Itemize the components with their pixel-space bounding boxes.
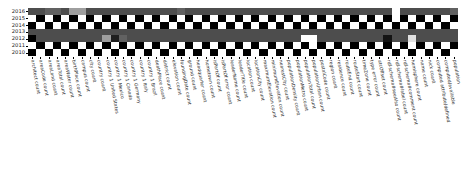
heatmap-cell (425, 8, 433, 15)
heatmap-cell (359, 8, 367, 15)
heatmap-cell (53, 8, 61, 15)
heatmap-cell (326, 15, 334, 22)
heatmap-cell (45, 49, 53, 56)
heatmap-cell (94, 8, 102, 15)
heatmap-cell (416, 29, 424, 36)
heatmap-cell (317, 49, 325, 56)
x-axis-tick-slot: leaderName count (226, 57, 234, 183)
x-axis-tick-mark (231, 57, 232, 59)
heatmap-cell (28, 15, 36, 22)
heatmap-cell (284, 49, 292, 56)
heatmap-cell (86, 22, 94, 29)
x-axis-tick-mark (140, 57, 141, 59)
heatmap-cell (144, 29, 152, 36)
x-axis-tick-mark (305, 57, 306, 59)
heatmap-cell (293, 29, 301, 36)
heatmap-cell (425, 15, 433, 22)
heatmap-cell (383, 49, 391, 56)
heatmap-cell (392, 35, 400, 42)
heatmap-cell (326, 35, 334, 42)
heatmap-cell (135, 29, 143, 36)
heatmap-cell (367, 42, 375, 49)
heatmap-cell (342, 35, 350, 42)
heatmap-cell (367, 29, 375, 36)
x-axis-tick-slot: areaWater count (61, 57, 69, 183)
x-axis-tick-slot: district count (160, 57, 168, 183)
x-axis-tick-slot: populationMetro count (293, 57, 301, 183)
heatmap-cell (326, 49, 334, 56)
heatmap-cell (367, 22, 375, 29)
x-axis-tick-mark (429, 57, 430, 59)
heatmap-cell (193, 8, 201, 15)
heatmap-cell (301, 8, 309, 15)
heatmap-cell (169, 29, 177, 36)
x-axis-tick-slot: population (450, 57, 458, 183)
heatmap-cell (326, 42, 334, 49)
heatmap-cell (293, 22, 301, 29)
heatmap-cell (119, 42, 127, 49)
heatmap-cell (276, 8, 284, 15)
heatmap-cell (243, 15, 251, 22)
heatmap-cell (218, 15, 226, 22)
heatmap-cell (111, 42, 119, 49)
heatmap-grid (28, 8, 458, 56)
heatmap-cell (119, 15, 127, 22)
heatmap-cell (301, 22, 309, 29)
heatmap-cell (392, 22, 400, 29)
heatmap-cell (235, 42, 243, 49)
heatmap-cell (425, 29, 433, 36)
heatmap-cell (284, 8, 292, 15)
x-axis-tick-slot: routeStart count (350, 57, 358, 183)
heatmap-cell (425, 42, 433, 49)
heatmap-cell (210, 42, 218, 49)
heatmap-cell (317, 15, 325, 22)
heatmap-cell (268, 29, 276, 36)
heatmap-cell (152, 35, 160, 42)
heatmap-cell (350, 8, 358, 15)
heatmap-cell (309, 15, 317, 22)
heatmap-cell (111, 29, 119, 36)
heatmap-cell (243, 8, 251, 15)
heatmap-cell (251, 49, 259, 56)
heatmap-cell (102, 35, 110, 42)
heatmap-cell (433, 29, 441, 36)
x-axis-tick-mark (264, 57, 265, 59)
heatmap-cell (359, 29, 367, 36)
heatmap-cell (135, 35, 143, 42)
heatmap-cell (450, 29, 458, 36)
x-axis-tick-slot: postalCode count (317, 57, 325, 183)
x-axis-tick-mark (115, 57, 116, 59)
heatmap-cell (425, 22, 433, 29)
heatmap-cell (111, 49, 119, 56)
heatmap-cell (450, 35, 458, 42)
heatmap-cell (193, 29, 201, 36)
heatmap-cell (78, 29, 86, 36)
x-axis-tick-slot: areaLand count (45, 57, 53, 183)
x-axis-tick-slot: country 1 United States (102, 57, 110, 183)
heatmap-cell (408, 42, 416, 49)
x-axis-tick-slot: computed attribute/defined (433, 57, 441, 183)
heatmap-cell (135, 42, 143, 49)
heatmap-cell (276, 22, 284, 29)
heatmap-cell (433, 35, 441, 42)
heatmap-cell (400, 49, 408, 56)
heatmap-cell (441, 8, 449, 15)
heatmap-cell (86, 29, 94, 36)
heatmap-cell (425, 35, 433, 42)
heatmap-cell (251, 42, 259, 49)
heatmap-cell (119, 35, 127, 42)
heatmap-cell (433, 49, 441, 56)
heatmap-cell (416, 42, 424, 49)
heatmap-cell (28, 29, 36, 36)
heatmap-cell (309, 35, 317, 42)
heatmap-cell (61, 49, 69, 56)
heatmap-cell (169, 35, 177, 42)
heatmap-cell (350, 22, 358, 29)
x-axis-tick-slot: headquarter count (193, 57, 201, 183)
heatmap-cell (160, 8, 168, 15)
heatmap-cell (53, 42, 61, 49)
x-axis-tick-slot: rdf-schema#comment count (400, 57, 408, 183)
heatmap-cell (28, 8, 36, 15)
x-axis-tick-slot: type error count (367, 57, 375, 183)
heatmap-cell (185, 29, 193, 36)
